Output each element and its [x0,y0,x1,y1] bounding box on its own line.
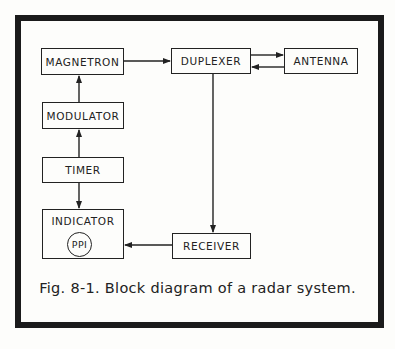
antenna-label: ANTENNA [293,55,348,67]
indicator-block: INDICATOR PPI [42,209,124,259]
ppi-circle: PPI [67,232,92,257]
magnetron-block: MAGNETRON [41,48,124,75]
duplexer-block: DUPLEXER [171,48,251,74]
modulator-block: MODULATOR [42,102,124,129]
modulator-label: MODULATOR [47,110,120,122]
timer-block: TIMER [42,157,124,183]
receiver-label: RECEIVER [183,240,240,252]
timer-label: TIMER [65,164,101,176]
indicator-label: INDICATOR [51,215,114,227]
ppi-label: PPI [72,239,87,250]
receiver-block: RECEIVER [172,233,251,259]
duplexer-label: DUPLEXER [181,55,242,67]
magnetron-label: MAGNETRON [46,56,120,68]
antenna-block: ANTENNA [284,48,358,74]
figure-caption: Fig. 8-1. Block diagram of a radar syste… [0,280,395,296]
